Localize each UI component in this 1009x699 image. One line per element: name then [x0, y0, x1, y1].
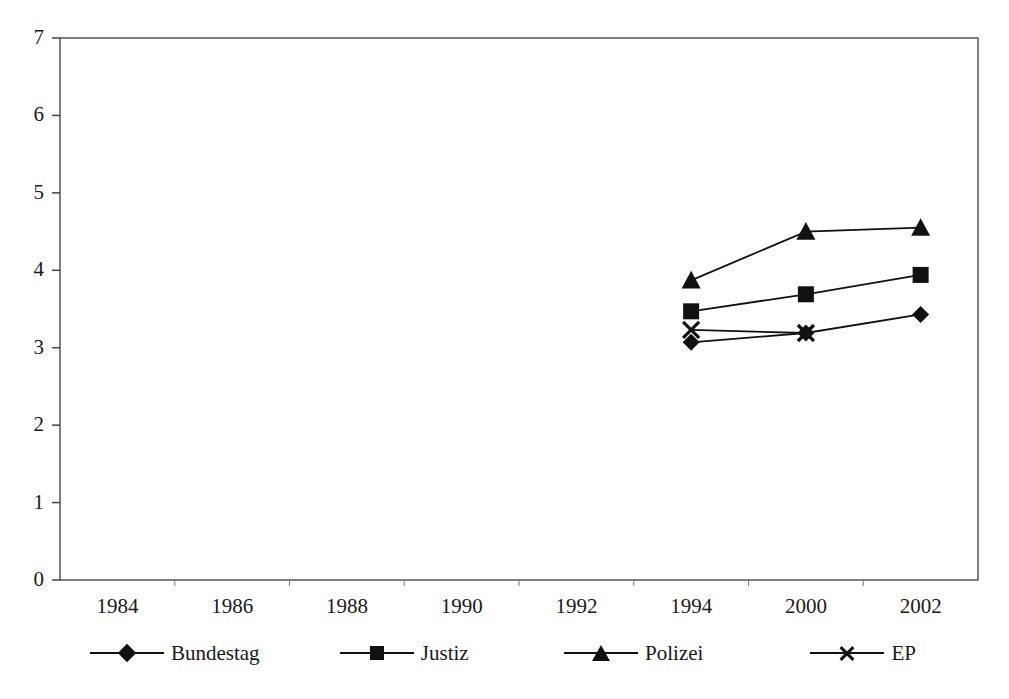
x-tick-label: 2000 [751, 596, 861, 617]
x-axis-ticks [175, 580, 864, 586]
legend-marker-square-icon [370, 646, 384, 660]
y-tick-label: 2 [10, 414, 44, 435]
y-tick-label: 6 [10, 104, 44, 125]
legend-sample [90, 642, 164, 664]
legend-sample [340, 642, 414, 664]
data-point-diamond [912, 306, 929, 323]
y-tick-label: 4 [10, 259, 44, 280]
x-tick-label: 1992 [521, 596, 631, 617]
x-tick-label: 1990 [407, 596, 517, 617]
series-line [691, 330, 806, 333]
y-axis-ticks [52, 38, 60, 580]
plot-area [0, 0, 1009, 699]
series-bundestag [683, 306, 930, 351]
line-chart: 76543210 1984198619881990199219942000200… [0, 0, 1009, 699]
legend-entry-bundestag[interactable]: Bundestag [60, 636, 290, 670]
legend-label: Polizei [645, 643, 703, 664]
legend-entry-ep[interactable]: EP [749, 636, 979, 670]
x-tick-label: 1984 [62, 596, 172, 617]
data-point-square [683, 303, 699, 319]
legend-marker-diamond-icon [118, 644, 136, 662]
plot-frame [60, 38, 978, 580]
series-polizei [682, 218, 931, 288]
legend-entry-justiz[interactable]: Justiz [290, 636, 520, 670]
legend-entry-polizei[interactable]: Polizei [519, 636, 749, 670]
series-justiz [683, 267, 929, 319]
legend-sample [810, 642, 884, 664]
legend-marker-cross-icon [838, 644, 856, 662]
x-tick-label: 1994 [636, 596, 746, 617]
chart-legend: BundestagJustizPolizeiEP [60, 636, 978, 670]
x-tick-label: 2002 [866, 596, 976, 617]
y-tick-label: 3 [10, 337, 44, 358]
data-point-triangle [682, 271, 701, 289]
y-tick-label: 0 [10, 569, 44, 590]
series-layer [682, 218, 931, 351]
legend-label: Bundestag [171, 643, 260, 664]
legend-label: Justiz [421, 643, 469, 664]
legend-label: EP [891, 643, 916, 664]
data-point-triangle [911, 218, 930, 236]
y-tick-label: 1 [10, 492, 44, 513]
x-tick-label: 1988 [292, 596, 402, 617]
data-point-square [798, 286, 814, 302]
y-tick-label: 7 [10, 27, 44, 48]
legend-sample [564, 642, 638, 664]
data-point-square [913, 267, 929, 283]
x-tick-label: 1986 [177, 596, 287, 617]
legend-marker-triangle-icon [592, 645, 610, 661]
y-tick-label: 5 [10, 182, 44, 203]
